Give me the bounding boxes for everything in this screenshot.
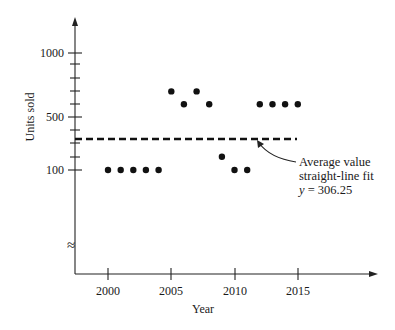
y-tick-label: 100 xyxy=(46,163,64,177)
data-point xyxy=(105,167,111,173)
y-axis xyxy=(68,17,82,274)
data-point xyxy=(295,101,301,107)
data-point xyxy=(181,101,187,107)
y-tick-label: 1000 xyxy=(40,46,64,60)
data-point xyxy=(143,167,149,173)
annotation-line-2: straight-line fit xyxy=(299,169,374,183)
data-point xyxy=(118,167,124,173)
x-tick-label: 2010 xyxy=(223,284,247,298)
x-tick-label: 2015 xyxy=(286,284,310,298)
annotation-line-3: y = 306.25 xyxy=(297,183,352,197)
data-point xyxy=(244,167,250,173)
data-point xyxy=(168,88,174,94)
data-point xyxy=(269,101,275,107)
x-tick-label: 2000 xyxy=(96,284,120,298)
chart: ≈ 1000 500 100 2000 2005 2010 2015 Year … xyxy=(0,0,395,330)
data-point xyxy=(257,101,263,107)
x-axis xyxy=(75,268,378,280)
y-tick-label: 500 xyxy=(46,110,64,124)
y-axis-title: Units sold xyxy=(23,92,37,141)
data-point xyxy=(219,154,225,160)
data-points xyxy=(105,88,301,173)
data-point xyxy=(193,88,199,94)
annotation-line-1: Average value xyxy=(299,155,371,169)
data-point xyxy=(130,167,136,173)
data-point xyxy=(282,101,288,107)
data-point xyxy=(231,167,237,173)
x-axis-title: Year xyxy=(192,302,214,316)
axis-break-icon: ≈ xyxy=(67,237,75,253)
x-tick-label: 2005 xyxy=(159,284,183,298)
data-point xyxy=(155,167,161,173)
data-point xyxy=(206,101,212,107)
annotation-arrow xyxy=(257,140,296,162)
